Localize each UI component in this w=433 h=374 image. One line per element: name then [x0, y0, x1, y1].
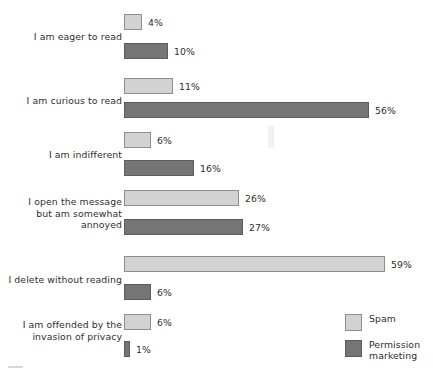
bar-value-spam: 4% [148, 17, 163, 28]
category-label: I am eager to read [0, 31, 122, 43]
chart-group: I open the message but am somewhat annoy… [0, 190, 433, 246]
bar-spam[interactable] [124, 14, 142, 30]
category-label: I am curious to read [0, 95, 122, 107]
bar-value-permission: 1% [136, 344, 151, 355]
bar-value-permission: 27% [249, 222, 270, 233]
bar-permission[interactable] [124, 102, 369, 118]
legend-label-permission: Permission marketing [369, 339, 420, 362]
bar-permission[interactable] [124, 43, 168, 59]
category-label: I am indifferent [0, 149, 122, 161]
bar-value-spam: 26% [245, 193, 266, 204]
legend-swatch-permission-icon [345, 340, 362, 357]
category-label: I am offended by the invasion of privacy [0, 319, 122, 342]
chart-group: I am indifferent 6% 16% [0, 132, 433, 184]
bar-permission[interactable] [124, 219, 243, 235]
bar-spam[interactable] [124, 256, 385, 272]
scan-artifact-middle [268, 126, 274, 148]
bar-spam[interactable] [124, 190, 239, 206]
bar-spam[interactable] [124, 132, 151, 148]
bar-value-permission: 16% [200, 163, 221, 174]
bar-value-spam: 6% [157, 317, 172, 328]
bar-value-permission: 6% [157, 287, 172, 298]
category-label: I delete without reading [0, 274, 122, 286]
bar-permission[interactable] [124, 341, 130, 357]
legend-label-spam: Spam [369, 313, 396, 324]
bar-value-permission: 56% [375, 105, 396, 116]
chart-group: I delete without reading 59% 6% [0, 256, 433, 308]
bar-spam[interactable] [124, 78, 173, 94]
bar-value-spam: 59% [391, 259, 412, 270]
bar-permission[interactable] [124, 284, 151, 300]
bar-value-spam: 11% [179, 81, 200, 92]
legend-swatch-spam-icon [345, 314, 362, 331]
bar-spam[interactable] [124, 314, 151, 330]
bar-value-spam: 6% [157, 135, 172, 146]
chart-group: I am eager to read 4% 10% [0, 14, 433, 66]
scan-artifact-bottom [8, 366, 23, 368]
bar-permission[interactable] [124, 160, 194, 176]
chart-group: I am curious to read 11% 56% [0, 78, 433, 130]
bar-value-permission: 10% [174, 46, 195, 57]
bar-chart: I am eager to read 4% 10% I am curious t… [0, 0, 433, 374]
category-label: I open the message but am somewhat annoy… [0, 196, 122, 231]
